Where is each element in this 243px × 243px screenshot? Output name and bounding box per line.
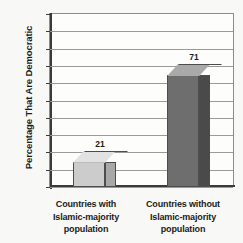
category-0-line-0: Countries with xyxy=(34,198,138,211)
y-tick-mark-20 xyxy=(46,152,50,153)
y-axis-title: Percentage That Are Democratic xyxy=(23,8,34,188)
y-tick-mark-30 xyxy=(46,135,50,136)
bar-value-label-1: 71 xyxy=(174,53,214,62)
gridline-0 xyxy=(50,187,233,188)
gridline-90 xyxy=(50,31,233,32)
bar-top-outline-1 xyxy=(167,64,222,76)
y-tick-mark-0 xyxy=(46,187,50,188)
category-0-line-1: Islamic-majority xyxy=(34,211,138,224)
bar-top-outline-0 xyxy=(73,151,128,163)
category-1-line-2: population xyxy=(131,223,235,236)
category-1-line-1: Islamic-majority xyxy=(131,211,235,224)
bar-side-face-0 xyxy=(105,162,116,187)
y-tick-mark-60 xyxy=(46,83,50,84)
bar-front-face-1 xyxy=(167,75,199,187)
category-1-line-0: Countries without xyxy=(131,198,235,211)
gridline-80 xyxy=(50,49,233,50)
x-axis-category-label-1: Countries withoutIslamic-majoritypopulat… xyxy=(131,198,235,236)
y-tick-mark-10 xyxy=(46,170,50,171)
bar-0 xyxy=(73,151,116,187)
y-tick-mark-90 xyxy=(46,31,50,32)
bar-1 xyxy=(167,64,210,187)
y-tick-mark-100 xyxy=(46,14,50,15)
y-tick-mark-70 xyxy=(46,66,50,67)
plot-area: 2171 xyxy=(49,13,234,187)
bar-value-label-0: 21 xyxy=(80,140,120,149)
x-axis-category-label-0: Countries withIslamic-majoritypopulation xyxy=(34,198,138,236)
y-tick-mark-50 xyxy=(46,101,50,102)
category-0-line-2: population xyxy=(34,223,138,236)
y-tick-mark-80 xyxy=(46,49,50,50)
y-tick-mark-40 xyxy=(46,118,50,119)
chart-screenshot: Percentage That Are Democratic 100908070… xyxy=(0,0,243,243)
bar-front-face-0 xyxy=(73,162,105,187)
bar-side-face-1 xyxy=(199,75,210,187)
